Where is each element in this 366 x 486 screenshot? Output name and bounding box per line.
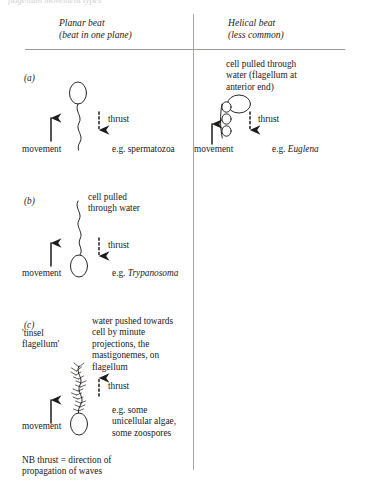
column-header-planar-subtitle: (beat in one plane) [59,29,132,40]
column-header-planar-title: Planar beat [59,17,105,28]
example-b-planar-prefix: e.g. [112,268,128,278]
flagellum-c-planar [78,366,82,413]
flagellum-b-planar [77,201,81,255]
note-a-helical: cell pulled through water (flagellum at … [226,59,297,93]
column-header-helical-subtitle: (less common) [228,29,284,40]
movement-label-a-planar: movement [22,144,61,155]
note-b-planar: cell pulled through water [88,192,140,215]
example-a-planar: e.g. spermatozoa [112,144,175,155]
figure-page: flagellum movement types Planar beat(bea… [0,0,366,486]
clipped-header-text: flagellum movement types [8,0,308,5]
thrust-label-a-planar: thrust [108,114,129,125]
cell-body-a-planar [70,82,87,104]
thrust-label-a-helical: thrust [258,114,279,125]
example-b-planar: e.g. Trypanosoma [112,268,178,279]
row-label-b: (b) [24,196,35,206]
header-horizontal-rule [25,49,345,50]
flagellum-a-planar [77,104,81,150]
column-header-helical: Helical beat(less common) [228,17,284,40]
example-a-helical-prefix: e.g. [272,144,288,154]
figure-artwork [0,0,366,486]
mastigonemes-c-planar [71,363,86,411]
example-c-planar: e.g. some unicellular algae, some zoospo… [112,405,176,439]
column-header-helical-title: Helical beat [228,17,275,28]
note-c-planar: water pushed towards cell by minute proj… [92,316,173,373]
example-a-helical-genus: Euglena [288,144,319,154]
movement-label-c-planar: movement [22,421,61,432]
example-b-planar-genus: Trypanosoma [128,268,179,278]
thrust-label-b-planar: thrust [108,240,129,251]
column-divider-rule [193,14,194,470]
cell-body-c-planar [71,413,88,435]
row-label-a: (a) [24,73,35,83]
thrust-label-c-planar: thrust [108,381,129,392]
column-header-planar: Planar beat(beat in one plane) [59,17,132,40]
movement-label-b-planar: movement [22,268,61,279]
cell-body-a-helical [228,95,251,113]
example-a-helical: e.g. Euglena [272,144,319,155]
cell-body-b-planar [71,255,88,277]
tinsel-flagellum-label: 'tinsel flagellum' [22,328,59,351]
figure-footnote: NB thrust = direction of propagation of … [22,455,111,478]
helical-flagellum-a [221,102,232,138]
movement-label-a-helical: movement [194,144,233,155]
